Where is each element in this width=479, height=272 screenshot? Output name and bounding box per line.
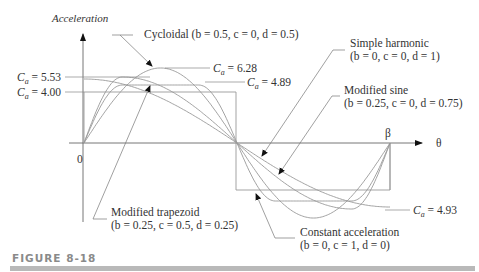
beta-label: β <box>385 127 391 139</box>
origin-label: 0 <box>77 153 83 165</box>
modified-sine-params: (b = 0.25, c = 0, d = 0.75) <box>344 97 462 109</box>
caption-bar <box>10 266 475 271</box>
ca-400-label: Ca = 4.00 <box>17 86 61 103</box>
simple-harmonic-params: (b = 0, c = 0, d = 1) <box>350 50 440 62</box>
modified-trapezoid-leader <box>93 86 150 219</box>
modified-trapezoid-name: Modified trapezoid <box>111 206 199 218</box>
y-axis-label: Acceleration <box>52 12 108 24</box>
theta-label: θ <box>436 137 442 149</box>
modified-trapezoid-params: (b = 0.25, c = 0.5, d = 0.25) <box>111 219 238 231</box>
modified-sine-name: Modified sine <box>344 84 408 96</box>
simple-harmonic-name: Simple harmonic <box>350 37 429 49</box>
modified-sine-leader <box>279 96 340 174</box>
constant-accel-name: Constant acceleration <box>300 226 399 238</box>
cycloidal-label: Cycloidal (b = 0.5, c = 0, d = 0.5) <box>144 28 299 40</box>
simple-harmonic-leader <box>262 50 345 156</box>
constant-accel-params: (b = 0, c = 1, d = 0) <box>300 239 390 251</box>
ca-493-label: Ca = 4.93 <box>413 204 457 221</box>
figure-caption: FIGURE 8-18 <box>12 252 96 264</box>
ca-489-label: Ca = 4.89 <box>247 76 291 93</box>
